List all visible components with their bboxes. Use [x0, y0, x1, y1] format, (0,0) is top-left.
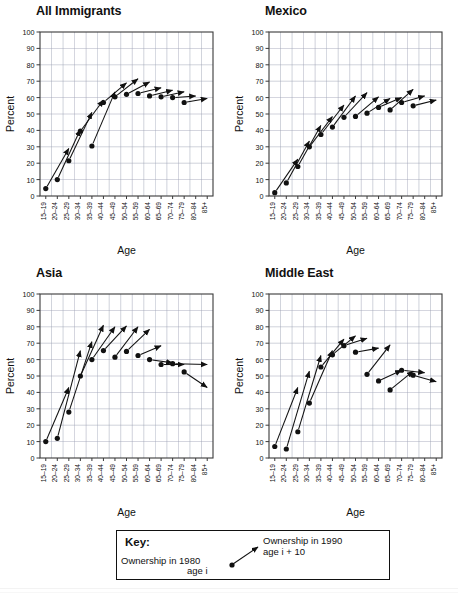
x-axis-tick-label: 55–59 — [132, 202, 139, 221]
data-point-marker-1980 — [101, 100, 106, 105]
x-axis-tick-label: 15–19 — [269, 202, 276, 221]
y-axis-tick-label: 0 — [31, 454, 35, 463]
x-axis-tick-label: 20–24 — [51, 464, 58, 483]
x-axis-tick-label: 45–49 — [109, 464, 116, 483]
y-axis-tick-label: 100 — [23, 290, 35, 299]
y-axis-tick-label: 20 — [256, 421, 264, 430]
data-point-marker-1980 — [411, 103, 416, 108]
data-point-marker-1980 — [43, 186, 48, 191]
x-axis-tick-label: 20–24 — [51, 202, 58, 221]
data-point-marker-1980 — [353, 114, 358, 119]
x-axis-tick-label: 60–64 — [144, 464, 151, 483]
data-point-marker-1980 — [66, 158, 71, 163]
y-axis-tick-label: 50 — [27, 372, 35, 381]
y-axis-tick-label: 30 — [27, 143, 35, 152]
data-point-marker-1980 — [388, 107, 393, 112]
y-axis-title: Percent — [4, 96, 16, 132]
data-point-marker-1980 — [272, 444, 277, 449]
data-point-marker-1980 — [101, 348, 106, 353]
x-axis-tick-label: 15–19 — [40, 202, 47, 221]
data-point-marker-1980 — [78, 373, 83, 378]
x-axis-tick-label: 20–24 — [280, 464, 287, 483]
x-axis-tick-label: 70–74 — [396, 202, 403, 221]
transition-arrow — [310, 351, 332, 401]
y-axis-tick-label: 50 — [256, 372, 264, 381]
x-axis-tick-label: 55–59 — [361, 464, 368, 483]
y-axis-tick-label: 90 — [256, 44, 264, 53]
y-axis-tick-label: 100 — [252, 290, 264, 299]
data-point-marker-1980 — [55, 436, 60, 441]
y-axis-tick-label: 90 — [256, 306, 264, 315]
data-point-marker-1980 — [399, 368, 404, 373]
x-axis-tick-label: 70–74 — [167, 464, 174, 483]
y-axis-tick-label: 30 — [27, 405, 35, 414]
x-axis-tick-label: 65–69 — [155, 464, 162, 483]
x-axis-tick-label: 75–79 — [178, 464, 185, 483]
y-axis-tick-label: 0 — [260, 192, 264, 201]
x-axis-tick-label: 15–19 — [40, 464, 47, 483]
transition-arrow — [276, 159, 297, 190]
data-point-marker-1980 — [135, 91, 140, 96]
data-point-marker-1980 — [147, 93, 152, 98]
data-point-marker-1980 — [295, 164, 300, 169]
x-axis-tick-label: 65–69 — [384, 464, 391, 483]
data-point-marker-1980 — [307, 400, 312, 405]
x-axis-tick-label: 35–39 — [315, 464, 322, 483]
y-axis-tick-label: 0 — [31, 192, 35, 201]
key-legend-box: Key: Ownership in 1980 age i Ownership i… — [116, 530, 390, 580]
y-axis-tick-label: 50 — [27, 110, 35, 119]
y-axis-tick-label: 80 — [27, 61, 35, 70]
y-axis-tick-label: 10 — [256, 176, 264, 185]
transition-arrow — [82, 325, 104, 373]
x-axis-tick-label: 25–29 — [63, 202, 70, 221]
x-axis-tick-label: 85+ — [430, 464, 437, 475]
data-point-marker-1980 — [78, 129, 83, 134]
x-axis-tick-label: 30–34 — [74, 464, 81, 483]
y-axis-tick-label: 40 — [27, 126, 35, 135]
data-point-marker-1980 — [182, 100, 187, 105]
transition-arrow — [82, 100, 103, 129]
x-axis-tick-label: 75–79 — [407, 202, 414, 221]
data-point-marker-1980 — [272, 190, 277, 195]
x-axis-tick-label: 70–74 — [167, 202, 174, 221]
x-axis-title: Age — [346, 244, 365, 256]
transition-arrow — [47, 387, 69, 439]
data-point-marker-1980 — [330, 352, 335, 357]
data-point-marker-1980 — [318, 364, 323, 369]
x-axis-tick-label: 20–24 — [280, 202, 287, 221]
data-point-marker-1980 — [341, 343, 346, 348]
x-axis-tick-label: 65–69 — [384, 202, 391, 221]
data-point-marker-1980 — [124, 349, 129, 354]
y-axis-tick-label: 80 — [256, 323, 264, 332]
y-axis-tick-label: 60 — [256, 356, 264, 365]
y-axis-tick-label: 90 — [27, 44, 35, 53]
x-axis-tick-label: 45–49 — [338, 464, 345, 483]
data-point-marker-1980 — [364, 111, 369, 116]
transition-arrow — [186, 373, 207, 387]
transition-arrow — [276, 387, 298, 443]
y-axis-tick-label: 40 — [256, 388, 264, 397]
data-point-marker-1980 — [295, 429, 300, 434]
data-point-marker-1980 — [135, 353, 140, 358]
x-axis-tick-label: 60–64 — [373, 464, 380, 483]
y-axis-tick-label: 70 — [256, 339, 264, 348]
x-axis-tick-label: 85+ — [201, 464, 208, 475]
data-point-marker-1980 — [147, 357, 152, 362]
x-axis-tick-label: 35–39 — [86, 464, 93, 483]
x-axis-title: Age — [117, 244, 136, 256]
data-point-marker-1980 — [55, 177, 60, 182]
x-axis-tick-label: 60–64 — [144, 202, 151, 221]
data-point-marker-1980 — [388, 387, 393, 392]
data-point-marker-1980 — [170, 361, 175, 366]
data-point-marker-1980 — [89, 143, 94, 148]
chart-svg-mexico: 010203040506070809010015–1920–2425–2930–… — [229, 0, 458, 262]
x-axis-tick-label: 15–19 — [269, 464, 276, 483]
data-point-marker-1980 — [159, 362, 164, 367]
x-axis-tick-label: 75–79 — [178, 202, 185, 221]
data-point-marker-1980 — [159, 94, 164, 99]
x-axis-tick-label: 80–84 — [419, 464, 426, 483]
data-point-marker-1980 — [411, 373, 416, 378]
data-point-marker-1980 — [170, 95, 175, 100]
transition-arrow — [105, 326, 126, 349]
x-axis-tick-label: 80–84 — [190, 202, 197, 221]
